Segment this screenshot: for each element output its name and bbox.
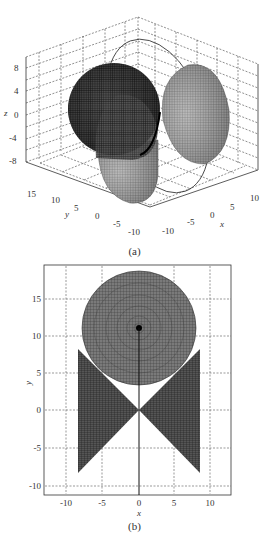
figure-a: 8 4 0 -4 -8 z 15 10 5 0 -5 -10 y -10 -5 … — [0, 0, 269, 255]
svg-text:8: 8 — [14, 63, 19, 73]
svg-text:15: 15 — [32, 294, 42, 304]
svg-text:-5: -5 — [34, 443, 42, 453]
svg-text:-8: -8 — [9, 156, 17, 166]
svg-text:-5: -5 — [113, 219, 121, 229]
svg-text:10: 10 — [206, 498, 216, 508]
svg-text:4: 4 — [14, 86, 19, 96]
svg-text:10: 10 — [51, 195, 61, 205]
svg-text:5: 5 — [172, 498, 177, 508]
svg-text:-10: -10 — [29, 481, 41, 491]
svg-text:0: 0 — [14, 110, 19, 120]
figure-a-plot: 8 4 0 -4 -8 z 15 10 5 0 -5 -10 y -10 -5 … — [0, 0, 269, 255]
svg-text:0: 0 — [137, 498, 142, 508]
x-axis-label: x — [219, 219, 224, 229]
svg-text:-5: -5 — [187, 217, 195, 227]
y-axis-label: y — [23, 381, 33, 386]
svg-text:15: 15 — [27, 189, 37, 199]
svg-text:-10: -10 — [60, 498, 72, 508]
z-axis-ticks: 8 4 0 -4 -8 — [9, 63, 19, 166]
svg-text:10: 10 — [250, 193, 260, 203]
svg-text:0: 0 — [210, 210, 215, 220]
caption-a: (a) — [0, 245, 269, 257]
svg-text:-5: -5 — [98, 498, 106, 508]
svg-text:5: 5 — [230, 202, 235, 212]
x-axis-label: x — [136, 508, 141, 518]
z-axis-label: z — [3, 108, 8, 118]
svg-text:0: 0 — [95, 211, 100, 221]
svg-text:-4: -4 — [9, 133, 17, 143]
caption-b: (b) — [0, 520, 269, 532]
svg-text:5: 5 — [74, 203, 79, 213]
y-axis-ticks: 15 10 5 0 -5 -10 — [29, 294, 42, 491]
svg-text:-10: -10 — [162, 226, 174, 236]
x-axis-ticks: -10 -5 0 5 10 — [162, 193, 260, 236]
svg-text:5: 5 — [37, 368, 42, 378]
x-axis-ticks: -10 -5 0 5 10 — [60, 498, 215, 508]
figure-b-plot: 15 10 5 0 -5 -10 y -10 -5 0 5 10 x — [0, 260, 269, 546]
svg-text:-10: -10 — [128, 227, 140, 237]
figure-b: 15 10 5 0 -5 -10 y -10 -5 0 5 10 x — [0, 260, 269, 546]
svg-text:10: 10 — [32, 331, 42, 341]
y-axis-label: y — [64, 209, 69, 219]
svg-text:0: 0 — [37, 405, 42, 415]
